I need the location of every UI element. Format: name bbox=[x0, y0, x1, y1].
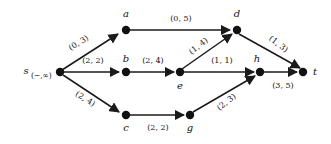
node-e[interactable] bbox=[176, 68, 184, 76]
node-label-c: c bbox=[123, 122, 129, 133]
node-s[interactable] bbox=[56, 68, 64, 76]
edge-label-h-t: (3, 5) bbox=[272, 81, 294, 90]
node-sublabel-s: (−,∞) bbox=[31, 71, 52, 80]
node-b[interactable] bbox=[122, 68, 130, 76]
edge-label-b-e: (2, 4) bbox=[142, 56, 164, 65]
node-g[interactable] bbox=[186, 111, 194, 119]
edge-label-s-a: (0, 3) bbox=[67, 33, 90, 52]
node-label-e: e bbox=[177, 80, 183, 91]
node-t[interactable] bbox=[299, 68, 307, 76]
node-a[interactable] bbox=[122, 26, 130, 34]
node-label-b: b bbox=[123, 53, 129, 64]
edge-label-e-h: (1, 1) bbox=[211, 56, 233, 65]
node-label-t: t bbox=[313, 66, 318, 77]
graph-canvas: s (−,∞) a b c d e g h t (0, 3) (2, 2) (2… bbox=[0, 0, 331, 144]
edge-label-s-b: (2, 2) bbox=[82, 56, 104, 65]
node-h[interactable] bbox=[256, 68, 264, 76]
node-label-g: g bbox=[187, 122, 193, 133]
node-label-d: d bbox=[234, 8, 240, 19]
edge-label-s-c: (2, 4) bbox=[74, 89, 97, 108]
edge-label-g-h: (2, 3) bbox=[215, 92, 237, 112]
node-label-h: h bbox=[254, 53, 260, 64]
node-d[interactable] bbox=[233, 26, 241, 34]
edge-label-a-d: (0, 5) bbox=[170, 14, 192, 23]
node-c[interactable] bbox=[122, 111, 130, 119]
node-label-a: a bbox=[123, 8, 129, 19]
node-label-s: s bbox=[23, 65, 28, 76]
flow-network-figure: s (−,∞) a b c d e g h t (0, 3) (2, 2) (2… bbox=[0, 0, 331, 144]
edge-label-c-g: (2, 2) bbox=[147, 123, 169, 132]
edge-label-e-d: (1, 4) bbox=[187, 36, 209, 56]
